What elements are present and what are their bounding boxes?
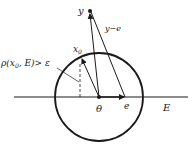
point-theta <box>97 95 101 99</box>
label-e: e <box>124 101 129 111</box>
point-y <box>88 9 92 13</box>
label-E: E <box>162 102 171 113</box>
label-distance-condition: ρ(x0, E)> ε <box>0 58 50 69</box>
diagram-canvas: y y−e x0 ρ(x0, E)> ε θ e E <box>0 0 194 155</box>
label-x0: x0 <box>73 44 82 55</box>
label-theta: θ <box>96 103 102 114</box>
vector-y <box>90 14 99 97</box>
label-y: y <box>77 5 84 16</box>
label-y-minus-e: y−e <box>104 24 121 33</box>
